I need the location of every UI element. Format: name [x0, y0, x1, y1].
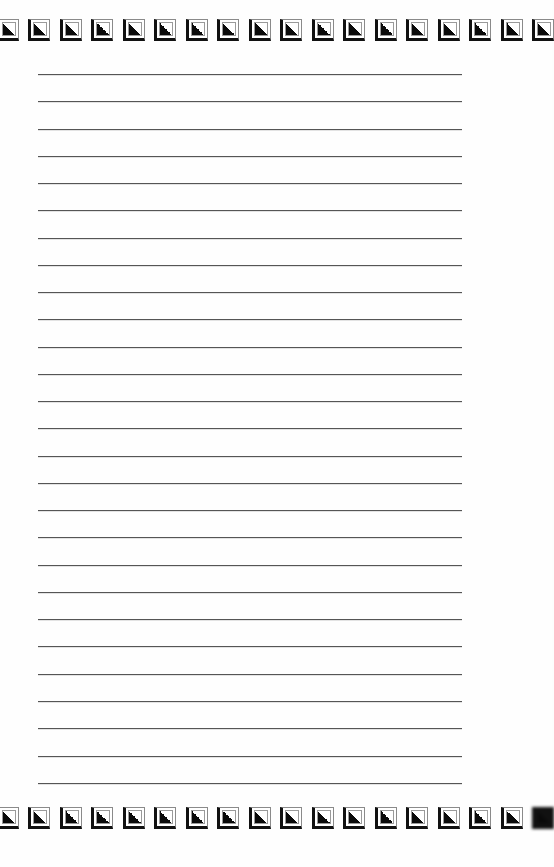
tile-inner-square	[33, 810, 47, 824]
triangle-icon	[507, 811, 519, 823]
writing-rule	[38, 374, 462, 375]
writing-rule	[38, 156, 462, 157]
tile-inner-square	[506, 810, 520, 824]
writing-rule	[38, 592, 462, 593]
tile-inner-square	[96, 810, 110, 824]
triangle-icon	[97, 811, 109, 823]
writing-rule	[38, 619, 462, 620]
writing-rule	[38, 401, 462, 402]
writing-rule	[38, 483, 462, 484]
tile-inner-square	[285, 810, 299, 824]
writing-rule	[38, 646, 462, 647]
corner-triangle-square-icon	[91, 807, 113, 829]
corner-triangle-square-icon	[532, 807, 554, 829]
tile-inner-square	[411, 810, 425, 824]
writing-rule	[38, 456, 462, 457]
corner-triangle-square-icon	[406, 807, 428, 829]
tile-inner-square	[191, 810, 205, 824]
writing-rule	[38, 783, 462, 784]
writing-rule	[38, 756, 462, 757]
triangle-icon	[34, 811, 46, 823]
corner-triangle-square-icon	[501, 807, 523, 829]
writing-rule	[38, 347, 462, 348]
corner-triangle-square-icon	[186, 807, 208, 829]
writing-rule	[38, 701, 462, 702]
writing-rule	[38, 728, 462, 729]
triangle-icon	[286, 811, 298, 823]
triangle-icon	[349, 811, 361, 823]
tile-inner-square	[222, 810, 236, 824]
triangle-icon	[318, 811, 330, 823]
writing-rule	[38, 510, 462, 511]
corner-triangle-square-icon	[438, 807, 460, 829]
writing-rule	[38, 319, 462, 320]
tile-inner-square	[65, 810, 79, 824]
tile-inner-square	[474, 810, 488, 824]
triangle-icon	[538, 811, 550, 823]
corner-triangle-square-icon	[123, 807, 145, 829]
corner-triangle-square-icon	[60, 807, 82, 829]
corner-triangle-square-icon	[312, 807, 334, 829]
tile-inner-square	[443, 810, 457, 824]
tile-inner-square	[380, 810, 394, 824]
writing-rule	[38, 428, 462, 429]
corner-triangle-square-icon	[217, 807, 239, 829]
writing-rule	[38, 265, 462, 266]
triangle-icon	[192, 811, 204, 823]
triangle-icon	[3, 811, 15, 823]
writing-rule	[38, 74, 462, 75]
writing-rule	[38, 183, 462, 184]
triangle-icon	[129, 811, 141, 823]
writing-rule	[38, 129, 462, 130]
tile-inner-square	[159, 810, 173, 824]
triangle-icon	[444, 811, 456, 823]
triangle-icon	[381, 811, 393, 823]
tile-inner-square	[2, 810, 16, 824]
writing-rule	[38, 210, 462, 211]
tile-inner-square	[254, 810, 268, 824]
triangle-icon	[475, 811, 487, 823]
writing-rule	[38, 537, 462, 538]
triangle-icon	[255, 811, 267, 823]
writing-rule	[38, 238, 462, 239]
writing-rule	[38, 292, 462, 293]
tile-inner-square	[348, 810, 362, 824]
triangle-icon	[160, 811, 172, 823]
tile-inner-square	[128, 810, 142, 824]
corner-triangle-square-icon	[469, 807, 491, 829]
tile-inner-square	[317, 810, 331, 824]
corner-triangle-square-icon	[280, 807, 302, 829]
corner-triangle-square-icon	[375, 807, 397, 829]
triangle-icon	[66, 811, 78, 823]
corner-triangle-square-icon	[28, 807, 50, 829]
corner-triangle-square-icon	[343, 807, 365, 829]
writing-rule	[38, 674, 462, 675]
corner-triangle-square-icon	[154, 807, 176, 829]
writing-rule	[38, 565, 462, 566]
bottom-decorative-border	[0, 807, 552, 833]
writing-rule	[38, 101, 462, 102]
triangle-icon	[412, 811, 424, 823]
corner-triangle-square-icon	[249, 807, 271, 829]
tile-inner-square	[537, 810, 551, 824]
corner-triangle-square-icon	[0, 807, 19, 829]
triangle-icon	[223, 811, 235, 823]
